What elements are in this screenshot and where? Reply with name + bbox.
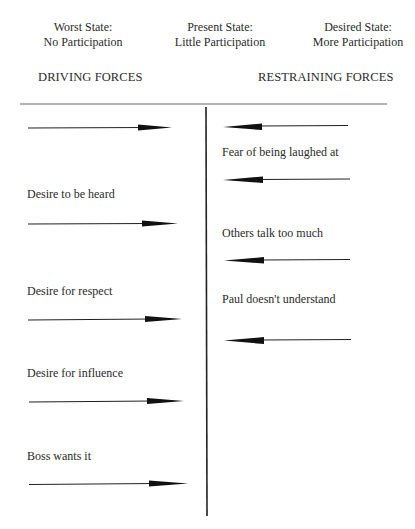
restraining-arrow-icon: [224, 337, 351, 344]
driving-arrow-icon: [29, 398, 184, 404]
driving-arrow-icon: [28, 316, 182, 322]
driving-arrow-icon: [29, 481, 188, 487]
restraining-arrow-icon: [223, 124, 348, 131]
driving-arrow-icon: [28, 125, 172, 131]
driving-force-label: Desire for respect: [27, 284, 112, 299]
restraining-arrow-icon: [223, 177, 350, 184]
restraining-force-label: Fear of being laughed at: [222, 145, 339, 160]
restraining-force-label: Paul doesn't understand: [222, 292, 335, 307]
driving-force-label: Boss wants it: [27, 449, 91, 464]
driving-arrow-icon: [28, 221, 178, 227]
driving-force-label: Desire to be heard: [27, 187, 115, 202]
vertical-divider: [206, 107, 207, 516]
restraining-arrow-icon: [224, 257, 350, 264]
driving-force-label: Desire for influence: [27, 366, 123, 381]
restraining-force-label: Others talk too much: [222, 226, 323, 241]
